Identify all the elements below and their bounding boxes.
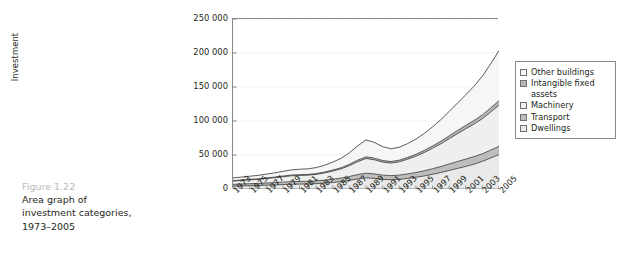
legend-item: Transport <box>520 112 611 122</box>
legend-swatch-icon <box>520 80 527 87</box>
legend-swatch-icon <box>520 69 527 76</box>
x-tick-label: 2005 <box>497 173 519 195</box>
chart-legend: Other buildingsIntangible fixed assetsMa… <box>515 61 616 139</box>
legend-label: Machinery <box>531 100 574 110</box>
legend-label: Dwellings <box>531 123 571 133</box>
plot-svg <box>233 19 499 189</box>
y-tick-label: 0 <box>172 183 228 193</box>
y-tick-label: 50 000 <box>172 149 228 159</box>
legend-item: Dwellings <box>520 123 611 133</box>
y-tick-label: 250 000 <box>172 13 228 23</box>
legend-swatch-icon <box>520 125 527 132</box>
legend-swatch-icon <box>520 114 527 121</box>
y-tick-label: 150 000 <box>172 81 228 91</box>
y-axis-tick-labels: 050 000100 000150 000200 000250 000 <box>171 0 228 200</box>
legend-label: Intangible fixed assets <box>531 78 611 99</box>
legend-item: Other buildings <box>520 67 611 77</box>
legend-label: Other buildings <box>531 67 594 77</box>
y-axis-title: Investment <box>10 2 20 112</box>
area-chart: Investment 050 000100 000150 000200 0002… <box>0 0 636 255</box>
legend-item: Intangible fixed assets <box>520 78 611 99</box>
plot-area <box>232 18 498 188</box>
figure-panel: Figure 1.22 Area graph of investment cat… <box>0 0 636 255</box>
legend-item: Machinery <box>520 100 611 110</box>
y-tick-label: 200 000 <box>172 47 228 57</box>
y-tick-label: 100 000 <box>172 115 228 125</box>
legend-label: Transport <box>531 112 569 122</box>
x-axis-tick-labels: 1973197519771979198119831985198719891991… <box>232 188 512 248</box>
legend-swatch-icon <box>520 102 527 109</box>
